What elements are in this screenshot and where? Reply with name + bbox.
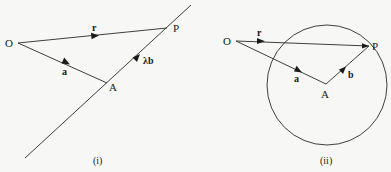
vector-a-label: a <box>62 66 67 77</box>
arrow-p-icon <box>362 43 369 48</box>
point-o-label: O <box>223 35 231 47</box>
point-o-label: O <box>5 37 13 49</box>
vector-a-segment <box>236 41 326 84</box>
point-a-label: A <box>321 88 329 100</box>
vector-lambda-b-label: λb <box>143 55 154 66</box>
point-p-label: P <box>372 40 378 52</box>
arrow-a-icon <box>62 58 70 65</box>
figure-i-caption: (i) <box>93 155 102 167</box>
figure-ii-caption: (ii) <box>320 155 332 167</box>
figure-ii: O P A r a b (ii) <box>223 25 387 167</box>
vector-r-segment <box>236 41 369 46</box>
point-a-label: A <box>109 81 117 93</box>
arrow-r-icon <box>257 38 265 44</box>
arrow-b-icon <box>339 66 346 74</box>
vector-r-label: r <box>257 27 262 38</box>
arrow-a-icon <box>294 66 302 73</box>
arrow-r-icon <box>91 33 99 39</box>
vector-b-label: b <box>348 69 354 80</box>
vector-r-label: r <box>92 22 97 33</box>
vector-a-label: a <box>294 73 299 84</box>
point-p-label: P <box>173 22 179 34</box>
figure-i: O P A r a λb (i) <box>5 5 191 167</box>
vector-diagram: O P A r a λb (i) O P A r a b (ii) <box>0 0 391 172</box>
